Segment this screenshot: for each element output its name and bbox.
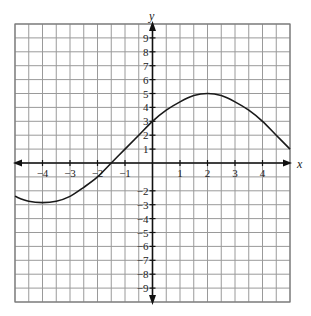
y-tick-label: 6 (143, 74, 149, 86)
x-tick-label: −4 (37, 167, 49, 179)
y-tick-label: −3 (137, 199, 149, 211)
function-graph: −4−3−2−11234987654321−2−3−4−5−6−7−8−9 x … (0, 0, 311, 316)
x-tick-label: 3 (232, 167, 238, 179)
x-axis-label: x (296, 157, 303, 171)
x-tick-label: −3 (64, 167, 76, 179)
y-tick-label: −2 (137, 185, 149, 197)
x-tick-label: 4 (260, 167, 266, 179)
axes (13, 21, 292, 305)
y-tick-label: 4 (143, 101, 149, 113)
y-tick-label: 9 (143, 32, 149, 44)
y-axis-label: y (148, 9, 155, 23)
y-tick-label: −8 (137, 268, 149, 280)
y-tick-label: −5 (137, 227, 149, 239)
y-axis-arrow-down-icon (149, 295, 156, 305)
y-tick-label: −4 (137, 213, 149, 225)
x-tick-label: −1 (119, 167, 131, 179)
x-axis-arrow-left-icon (13, 160, 22, 167)
y-tick-label: 1 (143, 143, 149, 155)
x-tick-label: 1 (177, 167, 183, 179)
x-tick-label: 2 (205, 167, 211, 179)
y-tick-label: −6 (137, 240, 149, 252)
y-tick-label: 7 (143, 60, 149, 72)
y-tick-label: 8 (143, 46, 149, 58)
y-tick-label: −7 (137, 254, 149, 266)
y-tick-label: 5 (143, 88, 149, 100)
x-axis-arrow-right-icon (283, 160, 292, 167)
y-tick-label: −9 (137, 282, 149, 294)
